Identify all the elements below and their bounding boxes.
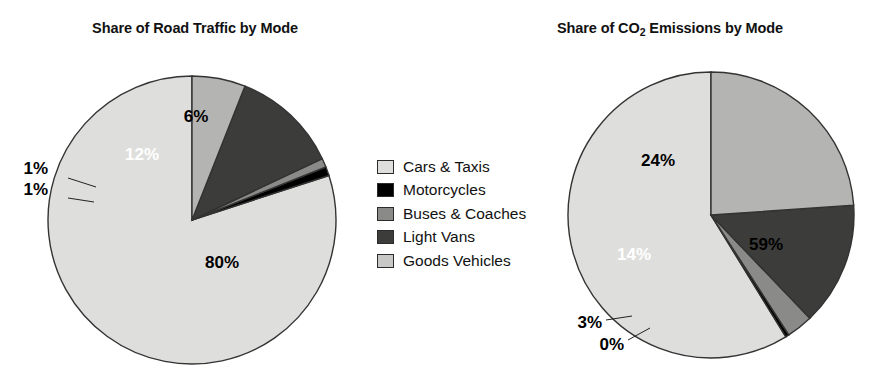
legend-label-cars-taxis: Cars & Taxis — [403, 159, 490, 175]
legend-label-motorcycles: Motorcycles — [403, 182, 486, 198]
legend: Cars & Taxis Motorcycles Buses & Coaches… — [377, 157, 526, 270]
legend-label-goods-vehicles: Goods Vehicles — [403, 253, 511, 269]
left-chart-title: Share of Road Traffic by Mode — [0, 20, 390, 36]
right-label-motorcycles: 0% — [599, 335, 624, 354]
legend-swatch-goods-vehicles — [377, 254, 394, 268]
right-chart-title: Share of CO2 Emissions by Mode — [470, 20, 870, 36]
left-label-motorcycles: 1% — [23, 180, 48, 199]
legend-swatch-cars-taxis — [377, 160, 394, 174]
left-label-cars: 80% — [205, 253, 239, 272]
legend-item-goods-vehicles[interactable]: Goods Vehicles — [377, 251, 526, 270]
left-pie-chart: 80% 12% 6% 1% 1% — [46, 74, 338, 366]
legend-item-cars-taxis[interactable]: Cars & Taxis — [377, 157, 526, 176]
right-pie-slices — [568, 72, 854, 358]
right-label-cars: 59% — [749, 235, 783, 254]
left-label-buses: 1% — [23, 159, 48, 178]
right-chart-title-after: Emissions by Mode — [645, 20, 783, 36]
legend-label-light-vans: Light Vans — [403, 229, 475, 245]
legend-label-buses-coaches: Buses & Coaches — [403, 206, 526, 222]
legend-swatch-light-vans — [377, 230, 394, 244]
legend-item-buses-coaches[interactable]: Buses & Coaches — [377, 204, 526, 223]
legend-swatch-buses-coaches — [377, 207, 394, 221]
legend-item-motorcycles[interactable]: Motorcycles — [377, 181, 526, 200]
right-label-buses: 3% — [577, 313, 602, 332]
right-label-goods: 24% — [641, 151, 675, 170]
right-chart-title-subscript: 2 — [640, 26, 646, 38]
right-pie-chart: 59% 24% 14% 3% 0% — [566, 70, 856, 360]
left-label-vans: 12% — [125, 145, 159, 164]
legend-swatch-motorcycles — [377, 183, 394, 197]
right-label-vans: 14% — [617, 245, 651, 264]
legend-item-light-vans[interactable]: Light Vans — [377, 228, 526, 247]
left-label-goods: 6% — [184, 107, 209, 126]
right-slice-goods[interactable] — [711, 72, 854, 215]
right-chart-title-before: Share of CO — [557, 20, 640, 36]
